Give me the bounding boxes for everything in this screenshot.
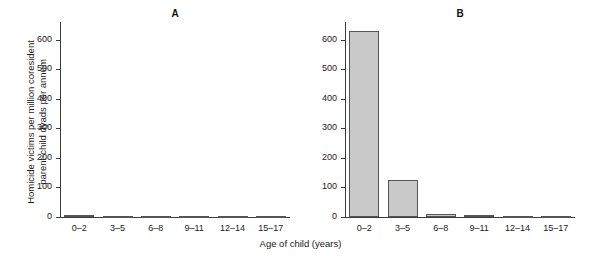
panel-a-plot-area: 01002003004005006000–23–56–89–1112–1415–… (60, 22, 290, 217)
bar (64, 215, 94, 217)
y-tick (341, 99, 345, 100)
y-tick-label: 400 (309, 93, 337, 103)
y-tick (56, 99, 60, 100)
y-tick-label: 0 (309, 211, 337, 221)
y-axis-line (345, 22, 346, 217)
y-tick (341, 128, 345, 129)
y-tick (56, 128, 60, 129)
y-tick-label: 500 (24, 63, 52, 73)
x-tick-label: 6–8 (136, 223, 176, 233)
x-tick-label: 15–17 (251, 223, 291, 233)
y-tick-label: 200 (24, 152, 52, 162)
panel-b: B 01002003004005006000–23–56–89–1112–141… (345, 8, 575, 228)
bar (388, 180, 418, 217)
panel-b-plot-area: 01002003004005006000–23–56–89–1112–1415–… (345, 22, 575, 217)
panel-a: A 01002003004005006000–23–56–89–1112–141… (60, 8, 290, 228)
y-tick-label: 500 (309, 63, 337, 73)
bar (541, 216, 571, 218)
bar (179, 216, 209, 218)
x-tick-label: 12–14 (498, 223, 538, 233)
bar (141, 216, 171, 218)
y-tick-label: 600 (24, 34, 52, 44)
bar (503, 216, 533, 218)
y-axis-line (60, 22, 61, 217)
y-tick (56, 217, 60, 218)
x-tick-label: 0–2 (344, 223, 384, 233)
x-tick-label: 12–14 (213, 223, 253, 233)
panel-a-label: A (60, 8, 290, 19)
y-tick-label: 600 (309, 34, 337, 44)
y-tick (56, 69, 60, 70)
panel-b-label: B (345, 8, 575, 19)
bar (103, 216, 133, 218)
y-tick (341, 40, 345, 41)
x-tick-label: 15–17 (536, 223, 576, 233)
y-tick-label: 100 (24, 181, 52, 191)
y-tick-label: 300 (309, 122, 337, 132)
y-tick (56, 158, 60, 159)
y-tick-label: 0 (24, 211, 52, 221)
x-tick-label: 0–2 (59, 223, 99, 233)
y-tick-label: 200 (309, 152, 337, 162)
y-tick (56, 40, 60, 41)
x-tick-label: 9–11 (174, 223, 214, 233)
x-tick-label: 3–5 (383, 223, 423, 233)
x-tick-label: 6–8 (421, 223, 461, 233)
y-tick (341, 69, 345, 70)
x-tick-label: 9–11 (459, 223, 499, 233)
bar (256, 216, 286, 218)
y-tick (341, 217, 345, 218)
bar (426, 214, 456, 217)
y-tick (341, 158, 345, 159)
x-axis-title: Age of child (years) (0, 238, 601, 249)
bar (349, 31, 379, 217)
y-tick (56, 187, 60, 188)
figure-homicide-victims-by-child-age: Homicide victims per million coresident … (0, 0, 601, 256)
y-tick-label: 100 (309, 181, 337, 191)
y-tick (341, 187, 345, 188)
y-tick-label: 300 (24, 122, 52, 132)
bar (464, 215, 494, 217)
x-tick-label: 3–5 (98, 223, 138, 233)
bar (218, 216, 248, 218)
y-tick-label: 400 (24, 93, 52, 103)
